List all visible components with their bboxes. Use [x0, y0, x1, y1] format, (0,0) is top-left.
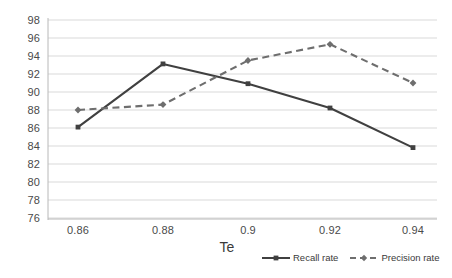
legend-swatch-solid-line-icon — [262, 253, 290, 263]
x-axis-tick-label: 0.92 — [306, 224, 354, 236]
legend-label: Recall rate — [293, 253, 338, 263]
legend-label: Precision rate — [381, 253, 439, 263]
x-axis-tick-label: 0.94 — [389, 224, 437, 236]
data-point-marker — [161, 62, 166, 67]
data-point-marker — [75, 107, 82, 114]
data-point-markers — [75, 41, 417, 114]
data-point-marker — [76, 125, 81, 130]
data-point-marker — [411, 145, 416, 150]
x-axis-tick-label: 0.86 — [54, 224, 102, 236]
data-point-marker — [327, 41, 334, 48]
data-point-marker — [246, 81, 251, 86]
data-point-marker — [160, 101, 167, 108]
x-axis-tick-label: 0.88 — [139, 224, 187, 236]
series-recall-rate — [76, 62, 416, 151]
chart-legend: Recall rate Precision rate — [262, 250, 448, 266]
line-chart: 98 96 94 92 90 88 86 84 82 80 78 76 — [0, 0, 452, 278]
plot-area — [0, 0, 452, 278]
data-point-marker — [410, 80, 417, 87]
gridlines — [48, 20, 437, 218]
legend-item-precision-rate: Precision rate — [350, 253, 439, 263]
x-axis-tick-label: 0.9 — [224, 224, 272, 236]
series-precision-rate — [75, 41, 417, 114]
legend-swatch-dashed-line-icon — [350, 253, 378, 263]
x-axis-title: Te — [182, 239, 272, 255]
legend-item-recall-rate: Recall rate — [262, 253, 338, 263]
data-point-marker — [328, 106, 333, 111]
